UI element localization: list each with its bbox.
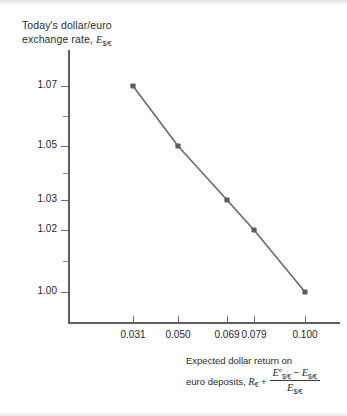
y-axis-line (68, 50, 70, 324)
numerator-term1-superscript: e (279, 366, 282, 373)
x-axis-caption-text: euro deposits, (186, 376, 248, 387)
y-tick-1-07: 1.07 (61, 86, 68, 87)
bottom-border-band (0, 412, 347, 416)
numerator-term1-subscript: $/€ (282, 373, 291, 380)
y-tick-label-1-00: 1.00 (38, 285, 57, 296)
y-tick-minor-1-01 (63, 261, 68, 262)
x-tick-0-069 (227, 316, 228, 323)
y-axis-title: Today's dollar/euro exchange rate, E$/€ (22, 18, 197, 48)
x-tick-label-0-079: 0.079 (241, 329, 266, 340)
fraction-denominator: E$/€ (284, 381, 305, 394)
rate-symbol: R (248, 376, 254, 387)
x-tick-0-100 (305, 316, 306, 323)
minus-operator: − (291, 367, 302, 378)
numerator-term2-subscript: $/€ (308, 373, 317, 380)
y-tick-label-1-07: 1.07 (38, 79, 57, 90)
data-point-0.079 (251, 227, 256, 232)
x-tick-0-079 (254, 316, 255, 323)
x-axis-line (68, 322, 340, 324)
x-axis-caption: Expected dollar return on euro deposits,… (186, 354, 346, 395)
expected-depreciation-fraction: Ee$/€ − E$/€ E$/€ (270, 367, 320, 394)
y-tick-1-05: 1.05 (61, 146, 68, 147)
y-axis-title-subscript: $/€ (102, 40, 111, 47)
x-axis-caption-prefix: euro deposits, R€ + (186, 375, 267, 389)
data-point-0.100 (302, 289, 307, 294)
numerator-term1-symbol: E (273, 367, 279, 378)
y-tick-label-1-05: 1.05 (38, 139, 57, 150)
plus-operator: + (258, 376, 266, 387)
data-point-0.069 (224, 197, 229, 202)
top-border-band (0, 0, 347, 5)
y-tick-label-1-03: 1.03 (38, 193, 57, 204)
series-markers (130, 83, 307, 294)
x-tick-0-031 (133, 316, 134, 323)
x-axis-caption-line2: euro deposits, R€ + Ee$/€ − E$/€ E$/€ (186, 368, 346, 395)
series-line (133, 86, 305, 292)
denominator-subscript: $/€ (294, 388, 303, 395)
x-tick-0-050 (178, 316, 179, 323)
y-axis-title-line1: Today's dollar/euro (22, 18, 197, 32)
x-axis-caption-line1: Expected dollar return on (186, 354, 346, 367)
data-point-0.031 (130, 83, 135, 88)
y-axis-title-line2: exchange rate, E$/€ (22, 32, 197, 48)
y-tick-minor-1-06 (63, 116, 68, 117)
y-axis-title-prefix: exchange rate, (22, 33, 96, 45)
y-tick-label-1-02: 1.02 (38, 223, 57, 234)
y-tick-1-02: 1.02 (61, 230, 68, 231)
y-tick-1-03: 1.03 (61, 200, 68, 201)
data-point-0.050 (175, 143, 180, 148)
x-tick-label-0-100: 0.100 (292, 329, 317, 340)
y-tick-1-00: 1.00 (61, 292, 68, 293)
x-tick-label-0-050: 0.050 (165, 329, 190, 340)
rate-subscript: € (255, 381, 259, 388)
x-tick-label-0-031: 0.031 (120, 329, 145, 340)
denominator-symbol: E (287, 382, 293, 393)
figure-container: Today's dollar/euro exchange rate, E$/€ … (0, 0, 347, 416)
x-tick-label-0-069: 0.069 (214, 329, 239, 340)
fraction-numerator: Ee$/€ − E$/€ (270, 367, 320, 380)
y-tick-minor-1-04 (63, 173, 68, 174)
